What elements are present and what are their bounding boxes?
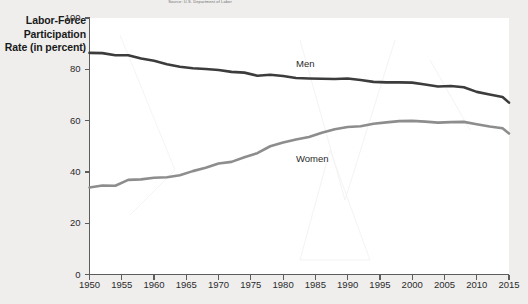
y-axis-tick-label: 100 <box>47 13 81 23</box>
series-label-men: Men <box>296 59 314 69</box>
chart-canvas <box>0 0 528 304</box>
x-axis-tick-label: 2015 <box>489 280 528 290</box>
axis-lines <box>90 18 510 275</box>
y-axis-tick-label: 20 <box>47 218 81 228</box>
y-axis-ticks <box>85 18 90 275</box>
y-axis-tick-label: 40 <box>47 167 81 177</box>
data-series-group <box>90 53 510 188</box>
chart-figure: Source: U.S. Department of Labor Labor-F… <box>0 0 528 304</box>
y-axis-tick-label: 60 <box>47 116 81 126</box>
background-artifacts <box>120 35 470 260</box>
series-label-women: Women <box>296 154 329 164</box>
y-axis-tick-label: 80 <box>47 64 81 74</box>
y-axis-tick-label: 0 <box>47 270 81 280</box>
